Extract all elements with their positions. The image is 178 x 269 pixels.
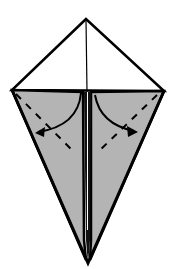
origami-diagram [0,0,178,269]
upper-white-triangle [12,19,164,91]
